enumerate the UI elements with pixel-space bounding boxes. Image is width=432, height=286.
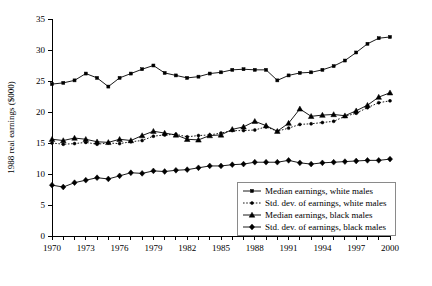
data-marker-square	[51, 83, 54, 86]
data-marker-dot	[310, 122, 313, 125]
data-marker-diamond	[376, 157, 381, 163]
data-marker-square	[107, 85, 110, 88]
data-marker-diamond	[106, 176, 111, 182]
data-marker-diamond	[162, 169, 167, 175]
y-tick-label: 30	[36, 45, 46, 55]
data-marker-square	[96, 76, 99, 79]
data-marker-diamond	[218, 163, 223, 169]
data-marker-square	[253, 68, 256, 71]
data-marker-square	[343, 59, 346, 62]
data-marker-square	[84, 72, 87, 75]
data-marker-diamond	[128, 170, 133, 176]
data-marker-square	[163, 71, 166, 74]
x-tick-label: 1979	[144, 243, 163, 253]
data-marker-diamond	[61, 184, 66, 190]
chart-container: 1988 real earnings ($000)051015202530351…	[0, 0, 432, 286]
data-marker-dot	[141, 139, 144, 142]
series-1	[51, 35, 392, 88]
data-marker-triangle	[365, 102, 371, 107]
y-axis-label: 1988 real earnings ($000)	[6, 81, 16, 174]
data-marker-square	[265, 68, 268, 71]
y-tick-label: 10	[36, 169, 46, 179]
data-marker-dot	[389, 99, 392, 102]
data-marker-diamond	[331, 159, 336, 165]
x-tick-label: 1973	[77, 243, 96, 253]
data-marker-dot	[73, 142, 76, 145]
data-marker-diamond	[173, 167, 178, 173]
data-marker-diamond	[252, 159, 257, 165]
series-line	[52, 101, 390, 144]
data-marker-triangle	[72, 135, 78, 140]
data-marker-diamond	[387, 156, 392, 162]
data-marker-dot	[118, 142, 121, 145]
data-marker-dot	[152, 135, 155, 138]
x-tick-label: 1997	[347, 243, 366, 253]
data-marker-dot	[377, 101, 380, 104]
data-marker-square	[141, 68, 144, 71]
data-marker-square	[62, 81, 65, 84]
legend-item-label: Std. dev. of earnings, black males	[265, 222, 386, 232]
x-tick-label: 1991	[280, 243, 298, 253]
data-marker-square	[186, 76, 189, 79]
data-marker-diamond	[117, 173, 122, 179]
data-marker-dot	[62, 143, 65, 146]
chart-legend: Median earnings, white malesStd. dev. of…	[237, 182, 395, 235]
y-tick-label: 15	[36, 138, 46, 148]
data-marker-triangle	[252, 119, 258, 124]
x-tick-label: 1994	[313, 243, 332, 253]
data-marker-diamond	[286, 157, 291, 163]
data-marker-square	[321, 68, 324, 71]
data-marker-diamond	[275, 159, 280, 165]
data-marker-square	[276, 79, 279, 82]
data-marker-square	[129, 72, 132, 75]
data-marker-square	[251, 190, 254, 193]
data-marker-triangle	[151, 128, 157, 133]
data-marker-diamond	[354, 158, 359, 164]
data-marker-diamond	[241, 161, 246, 167]
data-marker-square	[118, 76, 121, 79]
data-marker-dot	[298, 123, 301, 126]
legend-item-label: Median earnings, white males	[265, 186, 373, 196]
data-marker-diamond	[207, 163, 212, 169]
data-marker-square	[389, 35, 392, 38]
legend-item[interactable]: Std. dev. of earnings, black males	[243, 222, 386, 232]
data-marker-diamond	[83, 177, 88, 183]
data-marker-triangle	[117, 136, 123, 141]
x-tick-label: 2000	[381, 243, 400, 253]
data-marker-diamond	[342, 159, 347, 165]
data-marker-diamond	[365, 157, 370, 163]
x-tick-label: 1988	[246, 243, 265, 253]
legend-item[interactable]: Std. dev. of earnings, white males	[243, 198, 387, 208]
data-marker-triangle	[297, 106, 303, 111]
y-tick-label: 5	[41, 200, 46, 210]
data-marker-square	[73, 79, 76, 82]
data-marker-diamond	[49, 182, 54, 188]
data-marker-dot	[51, 142, 54, 145]
data-marker-square	[298, 71, 301, 74]
x-tick-label: 1982	[178, 243, 196, 253]
data-marker-triangle	[353, 108, 359, 113]
data-marker-dot	[242, 129, 245, 132]
data-marker-diamond	[297, 160, 302, 166]
data-marker-dot	[321, 121, 324, 124]
data-marker-square	[366, 42, 369, 45]
data-marker-diamond	[140, 170, 145, 176]
data-marker-square	[197, 75, 200, 78]
y-tick-label: 25	[36, 76, 46, 86]
data-marker-square	[208, 72, 211, 75]
data-marker-square	[242, 68, 245, 71]
line-chart: 1988 real earnings ($000)051015202530351…	[0, 0, 432, 286]
series-2	[51, 99, 392, 145]
data-marker-square	[220, 71, 223, 74]
data-marker-diamond	[309, 161, 314, 167]
data-marker-diamond	[185, 167, 190, 173]
x-tick-label: 1976	[111, 243, 130, 253]
data-marker-diamond	[72, 180, 77, 186]
x-tick-label: 1970	[43, 243, 62, 253]
data-marker-diamond	[320, 160, 325, 166]
y-tick-label: 0	[41, 231, 46, 241]
data-marker-square	[152, 64, 155, 67]
series-3	[49, 90, 393, 145]
data-marker-square	[355, 51, 358, 54]
data-marker-square	[287, 74, 290, 77]
